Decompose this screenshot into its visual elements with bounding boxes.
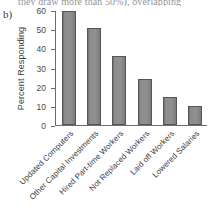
y-tick-60: 60 [51,11,55,12]
x-axis-category-label: Hired Part-time Workers [0,129,126,213]
panel-letter: b) [3,8,12,20]
y-tick-10: 10 [51,107,55,108]
bar [87,28,101,125]
y-tick-40: 40 [51,49,55,50]
bar-slot [157,11,182,125]
y-tick-label: 0 [41,121,46,131]
bar-series [56,11,207,125]
y-tick-20: 20 [51,88,55,89]
cut-off-running-text: they draw more than 50%), overlapping [18,0,212,6]
x-axis-category-label: Not Replaced Workers [3,129,151,213]
y-tick-label: 60 [37,6,46,16]
y-tick-label: 50 [37,25,46,35]
bar-slot [183,11,208,125]
y-axis-title: Percent Responding [16,11,28,126]
bar [112,56,126,125]
bar [188,106,202,125]
bar [163,97,177,126]
bar-slot [132,11,157,125]
y-tick-label: 10 [37,102,46,112]
x-axis-category-label: Other Capital Investments [0,129,100,213]
bar-slot [81,11,106,125]
x-axis-line [55,125,207,126]
bar-slot [56,11,81,125]
y-tick-30: 30 [51,69,55,70]
y-tick-label: 40 [37,44,46,54]
y-tick-label: 30 [37,64,46,74]
figure-panel: they draw more than 50%), overlapping b)… [0,0,212,213]
x-axis-category-label: Updated Computers [0,129,75,213]
plot-area: 0102030405060 [55,11,207,126]
y-tick-50: 50 [51,30,55,31]
bar [138,79,152,125]
bar-slot [107,11,132,125]
bar [62,11,76,125]
x-axis-category-label: Lowered Salaries [54,129,202,213]
y-tick-0: 0 [51,126,55,127]
y-tick-label: 20 [37,83,46,93]
x-axis-category-label: Laid off Workers [29,129,177,213]
